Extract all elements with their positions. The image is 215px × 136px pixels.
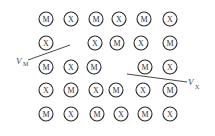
atom-label: M: [141, 110, 148, 119]
nonmetal-atom: X: [136, 83, 150, 97]
nonmetal-atom: X: [112, 12, 126, 26]
nonmetal-atom: X: [114, 107, 128, 121]
atom-label: M: [141, 63, 148, 72]
vacancy-subscript: X: [195, 84, 200, 90]
atom-label: X: [92, 39, 98, 48]
atom-label: X: [167, 15, 173, 24]
metal-atom: M: [163, 36, 177, 50]
metal-atom: M: [39, 12, 53, 26]
atom-label: M: [112, 86, 119, 95]
atom-label: M: [92, 15, 99, 24]
nonmetal-atom: X: [163, 60, 177, 74]
nonmetal-atom: X: [64, 107, 78, 121]
atom-label: M: [166, 86, 173, 95]
atom-label: M: [93, 110, 100, 119]
metal-atom: M: [138, 60, 152, 74]
atom-label: M: [67, 86, 74, 95]
nonmetal-atom: X: [134, 36, 148, 50]
atom-label: M: [42, 63, 49, 72]
metal-atom: M: [138, 107, 152, 121]
atom-label: X: [138, 39, 144, 48]
atom-label: X: [167, 110, 173, 119]
nonmetal-atom: X: [39, 36, 53, 50]
nonmetal-atom: X: [163, 12, 177, 26]
atom-label: M: [42, 110, 49, 119]
vacancy-subscript: M: [23, 61, 29, 67]
metal-atom: M: [110, 36, 124, 50]
nonmetal-atom: X: [89, 83, 103, 97]
nonmetal-atom: X: [39, 83, 53, 97]
atom-label: X: [93, 86, 99, 95]
metal-atom: M: [89, 12, 103, 26]
metal-atom: M: [87, 60, 101, 74]
atom-label: X: [116, 15, 122, 24]
atom-label: M: [90, 63, 97, 72]
metal-atom: M: [39, 60, 53, 74]
schottky-defect-diagram: MXMXMXXXMXMMXMMXXMXMXMMXMXMX VMVX: [0, 0, 215, 136]
atom-label: X: [68, 15, 74, 24]
atom-lattice: MXMXMXXXMXMMXMMXXMXMXMMXMXMX: [39, 12, 177, 121]
nonmetal-atom: X: [163, 107, 177, 121]
atom-label: M: [113, 39, 120, 48]
nonmetal-atom: X: [64, 60, 78, 74]
metal-atom: M: [137, 12, 151, 26]
atom-label: X: [68, 63, 74, 72]
vacancy-symbol: V: [188, 77, 195, 87]
atom-label: M: [140, 15, 147, 24]
atom-label: X: [167, 63, 173, 72]
atom-label: X: [118, 110, 124, 119]
pointer-line: [127, 74, 187, 82]
metal-atom: M: [163, 83, 177, 97]
atom-label: X: [43, 86, 49, 95]
nonmetal-atom: X: [64, 12, 78, 26]
metal-atom: M: [90, 107, 104, 121]
metal-atom: M: [109, 83, 123, 97]
metal-atom: M: [39, 107, 53, 121]
nonmetal-atom: X: [88, 36, 102, 50]
atom-label: M: [166, 39, 173, 48]
atom-label: X: [68, 110, 74, 119]
atom-label: X: [43, 39, 49, 48]
metal-atom: M: [64, 83, 78, 97]
vacancy-symbol: V: [16, 56, 23, 66]
atom-label: M: [42, 15, 49, 24]
atom-label: X: [140, 86, 146, 95]
